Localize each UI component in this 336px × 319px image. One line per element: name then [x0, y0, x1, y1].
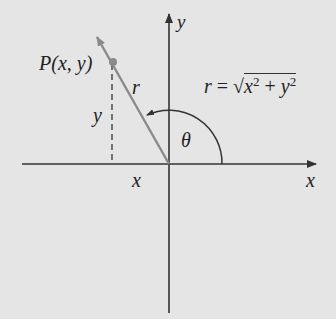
- polar-coordinates-diagram: y x P(x, y) r y x θ r = √x2 + y2: [0, 0, 336, 319]
- radius-vector: [97, 37, 169, 164]
- point-p-label: P(x, y): [39, 53, 92, 73]
- x-axis-label: x: [306, 170, 315, 190]
- radius-label: r: [132, 77, 140, 97]
- radius-formula: r = √x2 + y2: [204, 75, 296, 96]
- y-coordinate-label: y: [93, 105, 102, 125]
- formula-lhs: r: [204, 75, 212, 97]
- x-coordinate-label: x: [132, 170, 141, 190]
- theta-label: θ: [181, 130, 191, 150]
- formula-radicand: x2 + y2: [244, 73, 296, 97]
- y-axis-label: y: [177, 12, 185, 31]
- formula-equals: =: [217, 75, 228, 97]
- point-p: [109, 58, 117, 66]
- diagram-canvas: [0, 0, 336, 319]
- sqrt-icon: √: [233, 75, 244, 97]
